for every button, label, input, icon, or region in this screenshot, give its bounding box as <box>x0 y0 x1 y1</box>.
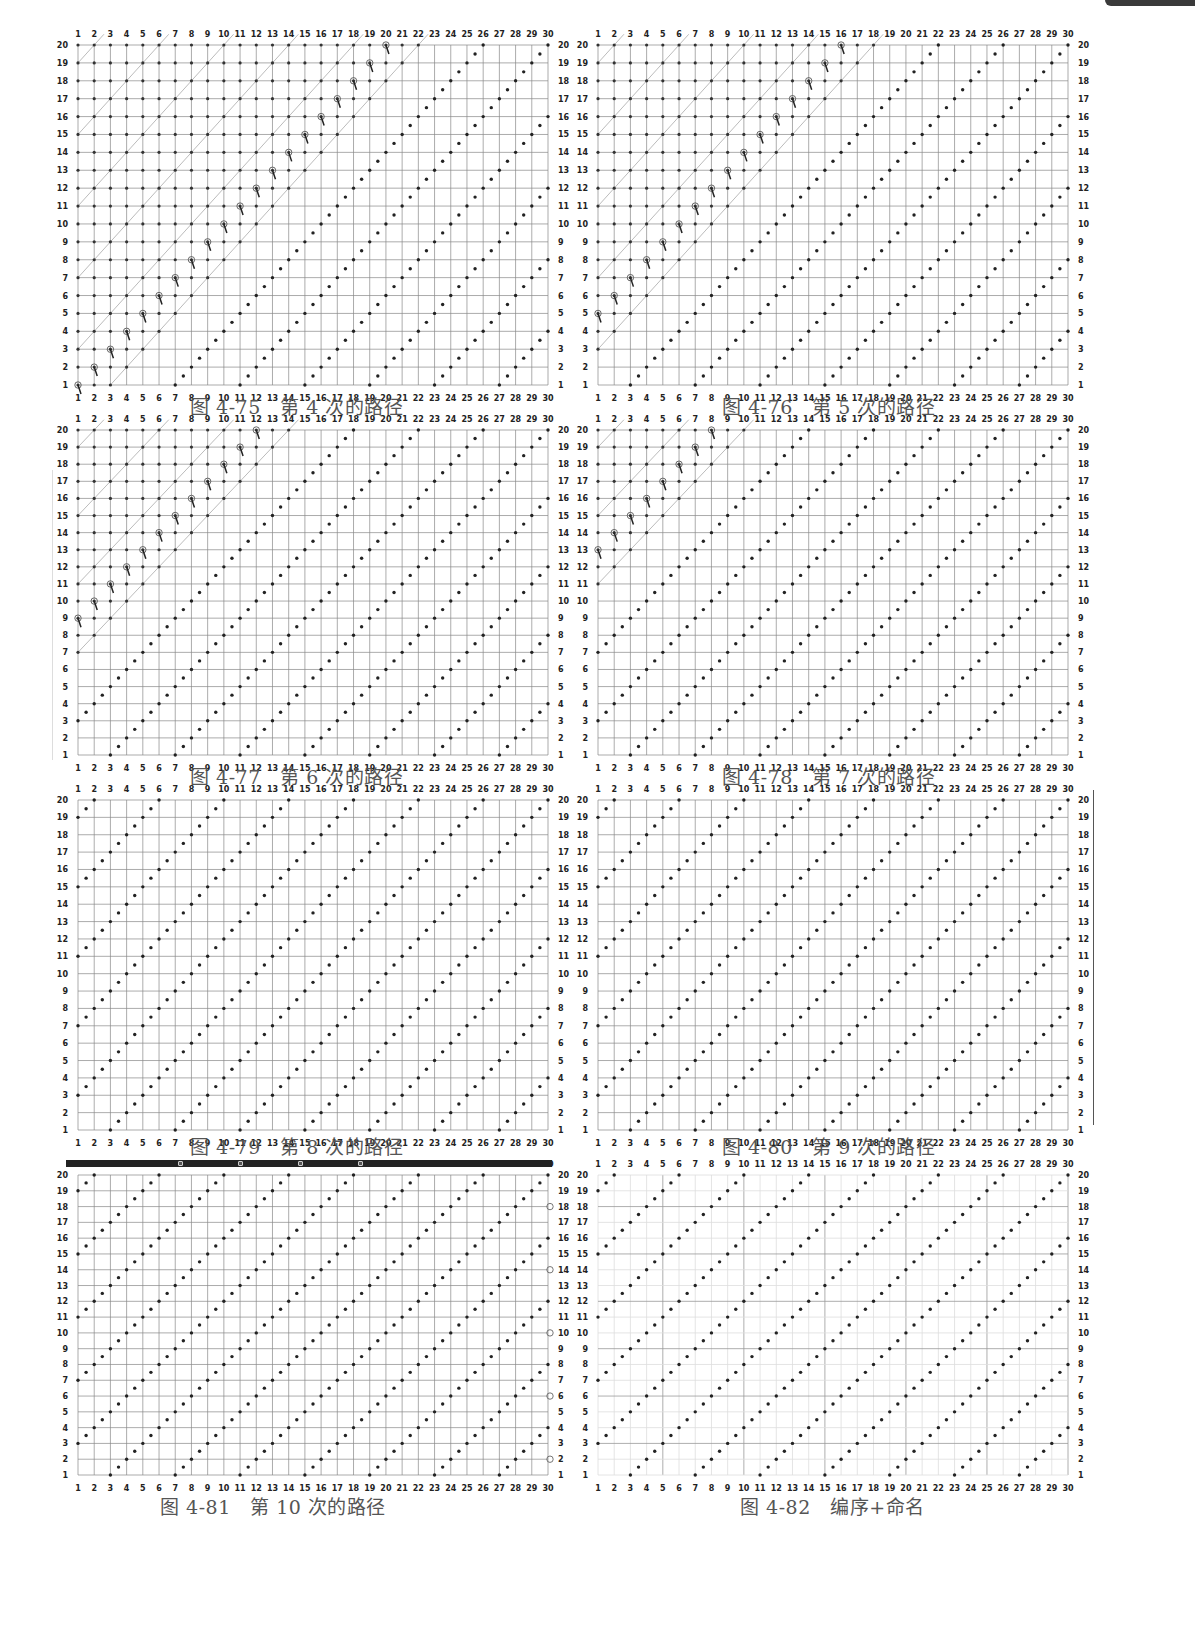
svg-text:2: 2 <box>91 415 97 424</box>
svg-text:5: 5 <box>660 1160 666 1169</box>
svg-text:23: 23 <box>429 1139 440 1148</box>
svg-text:9: 9 <box>205 785 211 794</box>
svg-text:20: 20 <box>1078 1171 1090 1180</box>
svg-text:1: 1 <box>595 415 601 424</box>
svg-text:7: 7 <box>172 764 178 773</box>
svg-text:16: 16 <box>558 865 570 874</box>
svg-text:8: 8 <box>189 415 195 424</box>
svg-text:19: 19 <box>558 59 570 68</box>
svg-text:1: 1 <box>1078 751 1084 760</box>
svg-text:13: 13 <box>577 546 588 555</box>
svg-text:26: 26 <box>478 394 490 403</box>
svg-text:13: 13 <box>267 785 278 794</box>
svg-text:7: 7 <box>692 1160 698 1169</box>
svg-text:8: 8 <box>62 1360 68 1369</box>
svg-text:20: 20 <box>558 426 570 435</box>
svg-text:10: 10 <box>577 970 589 979</box>
svg-text:6: 6 <box>156 785 162 794</box>
svg-text:2: 2 <box>611 1139 617 1148</box>
svg-text:20: 20 <box>1078 41 1090 50</box>
svg-text:1: 1 <box>62 1471 68 1480</box>
svg-text:19: 19 <box>884 1160 896 1169</box>
svg-text:2: 2 <box>91 1139 97 1148</box>
svg-text:5: 5 <box>582 683 588 692</box>
svg-text:10: 10 <box>57 970 69 979</box>
svg-text:17: 17 <box>852 1160 863 1169</box>
svg-text:2: 2 <box>1078 1455 1084 1464</box>
svg-text:21: 21 <box>397 30 409 39</box>
svg-text:16: 16 <box>1078 494 1090 503</box>
svg-text:8: 8 <box>1078 1360 1084 1369</box>
svg-text:8: 8 <box>582 1004 588 1013</box>
svg-text:14: 14 <box>577 148 589 157</box>
svg-text:6: 6 <box>676 394 682 403</box>
svg-text:10: 10 <box>57 597 69 606</box>
svg-text:7: 7 <box>558 1022 564 1031</box>
svg-text:16: 16 <box>1078 865 1090 874</box>
svg-text:11: 11 <box>234 415 246 424</box>
svg-text:15: 15 <box>819 1160 831 1169</box>
svg-text:1: 1 <box>1078 1126 1084 1135</box>
svg-text:4: 4 <box>582 1074 588 1083</box>
svg-text:11: 11 <box>577 1313 589 1322</box>
svg-text:20: 20 <box>380 30 392 39</box>
svg-text:26: 26 <box>998 394 1010 403</box>
svg-text:24: 24 <box>965 30 977 39</box>
svg-text:15: 15 <box>577 130 589 139</box>
svg-text:12: 12 <box>558 935 569 944</box>
svg-text:9: 9 <box>1078 238 1084 247</box>
svg-text:10: 10 <box>218 415 230 424</box>
svg-text:13: 13 <box>57 1282 68 1291</box>
svg-text:10: 10 <box>558 597 570 606</box>
svg-text:28: 28 <box>510 764 522 773</box>
svg-text:7: 7 <box>692 1484 698 1493</box>
svg-text:26: 26 <box>998 1160 1010 1169</box>
svg-text:29: 29 <box>1046 785 1058 794</box>
svg-text:28: 28 <box>510 30 522 39</box>
svg-text:6: 6 <box>558 665 564 674</box>
svg-text:28: 28 <box>1030 1484 1042 1493</box>
svg-text:4: 4 <box>644 785 650 794</box>
svg-text:11: 11 <box>577 952 589 961</box>
svg-text:5: 5 <box>582 309 588 318</box>
svg-text:27: 27 <box>1014 785 1025 794</box>
svg-text:29: 29 <box>526 30 538 39</box>
svg-text:2: 2 <box>558 734 564 743</box>
svg-text:3: 3 <box>1078 1439 1084 1448</box>
svg-text:15: 15 <box>558 512 570 521</box>
svg-text:23: 23 <box>429 415 440 424</box>
svg-text:11: 11 <box>234 785 246 794</box>
svg-text:25: 25 <box>981 30 993 39</box>
svg-text:21: 21 <box>397 415 409 424</box>
svg-text:18: 18 <box>348 785 360 794</box>
figure-4-77: 1122334455667788991010111112121313141415… <box>50 408 576 777</box>
svg-text:25: 25 <box>981 1139 993 1148</box>
svg-text:7: 7 <box>172 30 178 39</box>
svg-text:13: 13 <box>267 30 278 39</box>
svg-text:12: 12 <box>771 785 782 794</box>
svg-text:18: 18 <box>57 77 69 86</box>
svg-text:3: 3 <box>558 717 564 726</box>
svg-text:1: 1 <box>582 381 588 390</box>
svg-text:22: 22 <box>413 764 424 773</box>
svg-text:26: 26 <box>478 1484 490 1493</box>
svg-text:11: 11 <box>57 952 69 961</box>
svg-text:17: 17 <box>852 415 863 424</box>
grid-diagram: 1122334455667788991010111112121313141415… <box>50 408 576 777</box>
svg-text:14: 14 <box>803 785 815 794</box>
svg-text:2: 2 <box>558 363 564 372</box>
svg-text:5: 5 <box>660 1139 666 1148</box>
svg-text:30: 30 <box>1062 1160 1074 1169</box>
svg-text:4: 4 <box>582 1424 588 1433</box>
svg-text:8: 8 <box>558 1004 564 1013</box>
svg-text:15: 15 <box>57 512 69 521</box>
svg-text:13: 13 <box>558 546 569 555</box>
svg-text:17: 17 <box>577 477 588 486</box>
svg-text:17: 17 <box>852 785 863 794</box>
svg-text:13: 13 <box>787 1160 798 1169</box>
figure-4-79: 1122334455667788991010111112121313141415… <box>50 778 576 1152</box>
svg-text:3: 3 <box>582 717 588 726</box>
svg-text:14: 14 <box>803 415 815 424</box>
svg-text:29: 29 <box>1046 30 1058 39</box>
svg-text:8: 8 <box>709 415 715 424</box>
